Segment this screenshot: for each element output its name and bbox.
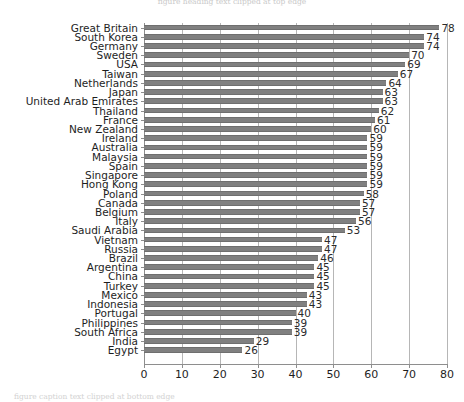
bar xyxy=(144,181,367,187)
bar xyxy=(144,154,367,160)
category-tick xyxy=(141,120,144,121)
bar xyxy=(144,126,371,132)
bar xyxy=(144,329,292,335)
x-tick-label: 70 xyxy=(402,369,416,380)
category-tick xyxy=(141,286,144,287)
bar xyxy=(144,135,367,141)
category-tick xyxy=(141,332,144,333)
category-tick xyxy=(141,295,144,296)
x-tick-label: 30 xyxy=(251,369,265,380)
bar xyxy=(144,25,439,31)
category-tick xyxy=(141,138,144,139)
bar xyxy=(144,218,356,224)
category-tick xyxy=(141,74,144,75)
bar xyxy=(144,255,318,261)
bar xyxy=(144,209,360,215)
x-tick-label: 20 xyxy=(213,369,227,380)
x-tick-label: 40 xyxy=(289,369,303,380)
bar xyxy=(144,34,424,40)
category-tick xyxy=(141,55,144,56)
category-tick xyxy=(141,240,144,241)
bar xyxy=(144,237,322,243)
category-tick xyxy=(141,313,144,314)
bar xyxy=(144,264,314,270)
category-tick xyxy=(141,230,144,231)
category-tick xyxy=(141,147,144,148)
bar-rows: 7874747069676463636261605959595959595857… xyxy=(144,23,447,364)
category-tick xyxy=(141,111,144,112)
plot-area: 7874747069676463636261605959595959595857… xyxy=(144,23,447,364)
bar xyxy=(144,310,296,316)
category-axis-labels: Great BritainSouth KoreaGermanySwedenUSA… xyxy=(0,23,141,364)
category-tick xyxy=(141,267,144,268)
bar xyxy=(144,274,314,280)
gridline-80 xyxy=(447,23,448,364)
bar-value-label: 53 xyxy=(347,225,360,236)
category-tick xyxy=(141,323,144,324)
bar xyxy=(144,145,367,151)
bar xyxy=(144,292,307,298)
x-tick-label: 10 xyxy=(175,369,189,380)
category-tick xyxy=(141,157,144,158)
category-tick xyxy=(141,350,144,351)
category-tick xyxy=(141,64,144,65)
bar xyxy=(144,80,386,86)
bar xyxy=(144,163,367,169)
bar xyxy=(144,347,242,353)
bar xyxy=(144,301,307,307)
bar xyxy=(144,98,383,104)
category-tick xyxy=(141,304,144,305)
category-tick xyxy=(141,28,144,29)
category-tick xyxy=(141,194,144,195)
bar xyxy=(144,62,405,68)
bar xyxy=(144,108,379,114)
bar-value-label: 39 xyxy=(294,327,307,338)
bar xyxy=(144,89,383,95)
x-tick-label: 0 xyxy=(141,369,148,380)
category-tick xyxy=(141,37,144,38)
category-tick xyxy=(141,249,144,250)
bar xyxy=(144,338,254,344)
category-tick xyxy=(141,46,144,47)
bar-value-label: 26 xyxy=(244,345,257,356)
clipped-heading-text: figure heading text clipped at top edge xyxy=(0,0,464,6)
bar xyxy=(144,117,375,123)
category-tick xyxy=(141,258,144,259)
category-tick xyxy=(141,203,144,204)
bar xyxy=(144,43,424,49)
bar xyxy=(144,283,314,289)
bar xyxy=(144,52,409,58)
category-tick xyxy=(141,184,144,185)
bar xyxy=(144,246,322,252)
x-tick-label: 60 xyxy=(364,369,378,380)
category-label: Egypt xyxy=(108,345,138,356)
bar xyxy=(144,200,360,206)
bar xyxy=(144,191,364,197)
category-tick xyxy=(141,101,144,102)
category-tick xyxy=(141,166,144,167)
bar xyxy=(144,71,398,77)
bar xyxy=(144,172,367,178)
clipped-caption-text: figure caption text clipped at bottom ed… xyxy=(0,392,464,402)
category-tick xyxy=(141,175,144,176)
bar-value-label: 78 xyxy=(441,23,454,34)
bar-value-label: 74 xyxy=(426,41,439,52)
category-tick xyxy=(141,341,144,342)
bar xyxy=(144,228,345,234)
bar xyxy=(144,320,292,326)
category-tick xyxy=(141,221,144,222)
category-tick xyxy=(141,83,144,84)
category-tick xyxy=(141,212,144,213)
bar-chart-figure: figure heading text clipped at top edge … xyxy=(0,0,464,402)
category-tick xyxy=(141,276,144,277)
category-tick xyxy=(141,129,144,130)
category-tick xyxy=(141,92,144,93)
x-tick-label: 50 xyxy=(326,369,340,380)
x-tick-label: 80 xyxy=(440,369,454,380)
